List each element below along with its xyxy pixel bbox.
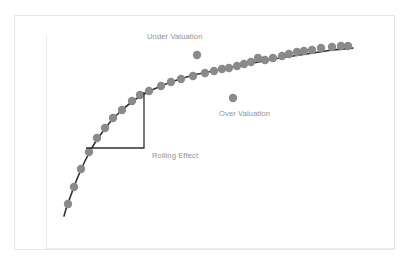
scatter-point [261, 56, 269, 64]
rolling-effect-label: Rolling Effect [152, 151, 198, 160]
chart-plot-svg [15, 16, 396, 251]
scatter-point [189, 72, 197, 80]
under-valuation-point [193, 51, 201, 59]
scatter-point [177, 75, 185, 83]
scatter-point [77, 165, 85, 173]
scatter-point [201, 69, 209, 77]
scatter-point [328, 43, 336, 51]
over-valuation-label: Over Valuation [219, 109, 270, 118]
scatter-point [118, 106, 126, 114]
scatter-point [136, 91, 144, 99]
under-valuation-label: Under Valuation [147, 32, 202, 41]
scatter-point [101, 124, 109, 132]
scatter-point [300, 47, 308, 55]
scatter-point [317, 44, 325, 52]
scatter-point [308, 46, 316, 54]
scatter-point [285, 50, 293, 58]
scatter-point [157, 82, 165, 90]
cropped-header-strip: —— —— ——— —— —— [0, 0, 410, 9]
scatter-point [109, 114, 117, 122]
scatter-points-group [64, 42, 352, 208]
scatter-point [167, 78, 175, 86]
outlier-points-group [193, 51, 237, 102]
chart-card: Under Valuation Over Valuation Rolling E… [14, 15, 395, 250]
scatter-point [93, 134, 101, 142]
scatter-point [85, 148, 93, 156]
scatter-point [145, 87, 153, 95]
scatter-point [269, 54, 277, 62]
cropped-header-text: —— —— ——— —— —— [4, 0, 176, 6]
scatter-point [210, 67, 218, 75]
over-valuation-point [229, 94, 237, 102]
scatter-point [225, 64, 233, 72]
scatter-point [128, 97, 136, 105]
scatter-point [70, 183, 78, 191]
scatter-point [64, 200, 72, 208]
scatter-point [344, 42, 352, 50]
